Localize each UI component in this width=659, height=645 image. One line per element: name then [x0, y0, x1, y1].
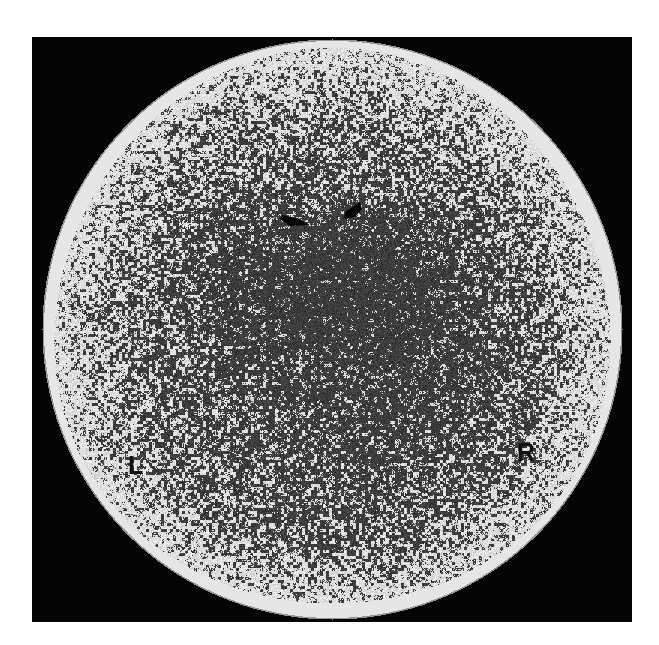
- scintigraphy-image: [32, 37, 632, 622]
- left-side-marker: L: [128, 453, 143, 478]
- right-side-marker: R: [517, 440, 535, 465]
- scan-frame: L R: [32, 37, 632, 622]
